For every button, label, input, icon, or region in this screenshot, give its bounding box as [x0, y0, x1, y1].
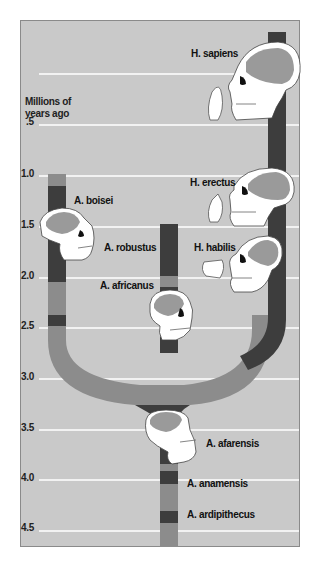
lineage-diagram [0, 0, 315, 561]
stone-tool-icon [208, 87, 222, 120]
africanus-stem-dark-top [160, 224, 178, 276]
label-a-ardipithecus: A. ardipithecus [187, 509, 255, 520]
label-a-boisei: A. boisei [74, 195, 113, 206]
tick-label-2-5: 2.5 [21, 320, 34, 331]
label-h-erectus: H. erectus [190, 177, 235, 188]
lineage-fork-bowl [48, 315, 270, 405]
a-africanus-skull-icon [150, 290, 193, 340]
chopper-tool-icon [202, 260, 223, 278]
label-a-robustus: A. robustus [104, 242, 156, 253]
tick-label-4-5: 4.5 [21, 522, 34, 533]
trunk-light-3 [160, 523, 178, 547]
trunk-light-2 [160, 484, 178, 511]
robustus-stem-light [48, 282, 66, 315]
label-a-africanus: A. africanus [100, 280, 154, 291]
tick-label-4-0: 4.0 [21, 472, 34, 483]
robustus-stem-dark [48, 315, 66, 326]
tick-label-3-0: 3.0 [21, 371, 34, 382]
tick-label-2-0: 2.0 [21, 270, 34, 281]
tick-label-0-5: .5 [26, 116, 34, 127]
a-afarensis-skull-icon [146, 410, 197, 464]
hand-axe-icon [208, 194, 222, 222]
tick-label-3-5: 3.5 [21, 422, 34, 433]
h-sapiens-skull-icon [228, 42, 300, 120]
trunk-light-1 [160, 464, 178, 471]
robustus-stem-light-bottom [48, 326, 66, 338]
label-a-afarensis: A. afarensis [206, 438, 259, 449]
label-h-habilis: H. habilis [194, 242, 235, 253]
africanus-stem-light [160, 276, 178, 287]
label-h-sapiens: H. sapiens [191, 48, 238, 59]
ardipithecus-bar [160, 511, 178, 523]
anamensis-bar [160, 471, 178, 484]
label-a-anamensis: A. anamensis [187, 478, 248, 489]
tick-label-1-5: 1.5 [21, 219, 34, 230]
tick-label-1-0: 1.0 [21, 168, 34, 179]
boisei-stem-light-top [48, 174, 66, 186]
